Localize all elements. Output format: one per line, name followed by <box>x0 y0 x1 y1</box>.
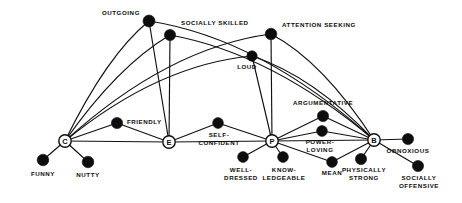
hub-node-B[interactable]: B <box>368 134 380 146</box>
node-well_dressed[interactable] <box>238 152 249 163</box>
label-self_confident_2: CONFIDENT <box>198 139 239 146</box>
label-obnoxious: OBNOXIOUS <box>387 147 430 154</box>
hub-node-C[interactable]: C <box>59 135 71 147</box>
graph-canvas: CEPB OUTGOINGSOCIALLY SKILLEDATTENTION S… <box>0 0 462 203</box>
node-socially_skilled[interactable] <box>164 29 175 40</box>
node-knowledgeable[interactable] <box>278 152 289 163</box>
edge-curve-B-loud <box>252 56 374 140</box>
label-socially_offensive_1: SOCIALLY <box>401 174 436 181</box>
label-socially_skilled: SOCIALLY SKILLED <box>181 19 249 26</box>
hub-node-P[interactable]: P <box>266 135 278 147</box>
hub-letter-B: B <box>371 136 377 145</box>
hub-letter-P: P <box>269 137 274 146</box>
node-mean[interactable] <box>327 157 338 168</box>
edge-curve-B-outgoing <box>149 21 374 140</box>
edge-C-E <box>65 141 169 142</box>
label-mean: MEAN <box>322 169 342 176</box>
node-socially_offensive[interactable] <box>412 160 423 171</box>
label-loud: LOUD <box>237 63 257 70</box>
edge-socially_skilled-E <box>169 35 170 142</box>
node-loud[interactable] <box>247 51 257 61</box>
node-attention_seeking[interactable] <box>265 28 277 40</box>
label-physically_strong_1: PHYSICALLY <box>342 166 386 173</box>
label-funny: FUNNY <box>31 170 55 177</box>
node-outgoing[interactable] <box>143 15 155 27</box>
label-attention_seeking: ATTENTION SEEKING <box>282 21 356 28</box>
label-physically_strong_2: STRONG <box>349 174 379 181</box>
label-argumentative: ARGUMENTATIVE <box>293 99 353 106</box>
edge-curve-C-loud <box>65 56 252 141</box>
label-socially_offensive_2: OFFENSIVE <box>399 182 439 189</box>
label-knowledgeable_1: KNOW- <box>272 166 296 173</box>
hub-letter-E: E <box>166 138 171 147</box>
node-funny[interactable] <box>37 154 49 166</box>
node-self_confident[interactable] <box>213 118 224 129</box>
edge-mean-B <box>332 140 374 162</box>
label-friendly: FRIENDLY <box>127 118 162 125</box>
edge-curve-C-attention_seeking <box>65 34 271 141</box>
label-nutty: NUTTY <box>76 171 100 178</box>
node-physically_strong[interactable] <box>355 153 366 164</box>
hub-letter-C: C <box>62 137 68 146</box>
label-well_dressed_1: WELL- <box>230 166 252 173</box>
label-self_confident_1: SELF- <box>209 131 230 138</box>
trait-node-layer <box>37 15 423 172</box>
label-power_loving_2: LOVING <box>306 146 333 153</box>
node-nutty[interactable] <box>82 156 94 168</box>
node-power_loving[interactable] <box>317 126 328 137</box>
label-well_dressed_2: DRESSED <box>224 174 258 181</box>
label-knowledgeable_2: LEDGEABLE <box>262 174 305 181</box>
edge-attention_seeking-P <box>271 34 272 141</box>
node-obnoxious[interactable] <box>402 133 413 144</box>
edge-friendly-E <box>117 123 169 142</box>
label-power_loving_1: POWER- <box>306 138 335 145</box>
node-argumentative[interactable] <box>317 110 328 121</box>
label-outgoing: OUTGOING <box>102 9 140 16</box>
trait-network-diagram: CEPB OUTGOINGSOCIALLY SKILLEDATTENTION S… <box>0 0 462 203</box>
hub-node-E[interactable]: E <box>163 136 175 148</box>
node-friendly[interactable] <box>111 117 122 128</box>
